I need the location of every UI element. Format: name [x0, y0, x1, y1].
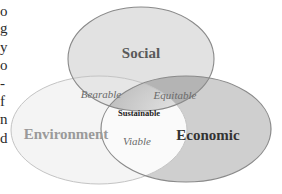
social-label: Social	[122, 45, 160, 61]
viable-label: Viable	[123, 135, 151, 147]
sustainable-label: Sustainable	[118, 108, 160, 118]
venn-diagram: Social Environment Economic Bearable Equ…	[0, 0, 282, 194]
environment-label: Environment	[24, 126, 109, 142]
equitable-label: Equitable	[153, 89, 197, 101]
bearable-label: Bearable	[81, 88, 121, 100]
venn-figure: ogyo-fnd	[0, 0, 282, 194]
economic-label: Economic	[176, 127, 240, 143]
